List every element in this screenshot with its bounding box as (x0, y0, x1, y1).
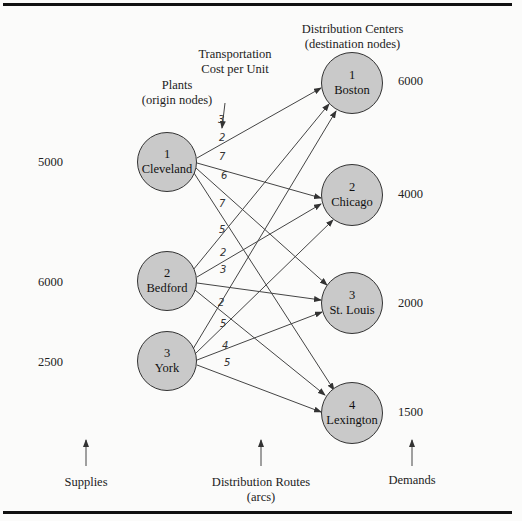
dc-label: Distribution Centers (295, 22, 410, 37)
cost-york-stlouis: 4 (222, 340, 228, 351)
demand-chicago: 4000 (398, 187, 423, 202)
node-name: St. Louis (329, 303, 374, 318)
dc-heading: Distribution Centers (destination nodes) (295, 22, 410, 52)
origin-node-cleveland: 1 Cleveland (137, 132, 197, 192)
cost-bedford-boston: 7 (219, 198, 226, 209)
arc-cleveland-chicago (197, 163, 321, 198)
arc-york-boston (193, 111, 336, 349)
dest-node-stlouis: 3 St. Louis (321, 272, 383, 334)
node-name: Lexington (326, 413, 377, 428)
arc-cleveland-stlouis (196, 168, 327, 285)
cost-york-boston: 2 (218, 297, 224, 308)
demand-lexington: 1500 (398, 405, 423, 420)
dest-node-lexington: 4 Lexington (321, 382, 383, 444)
arc-bedford-chicago (197, 204, 321, 277)
cost-york-chicago: 5 (220, 318, 226, 329)
dest-node-chicago: 2 Chicago (321, 164, 383, 226)
cost-bedford-stlouis: 2 (220, 247, 226, 258)
supply-york: 2500 (38, 355, 63, 370)
demand-stlouis: 2000 (398, 296, 423, 311)
demands-label: Demands (382, 473, 442, 488)
node-id: 3 (349, 288, 355, 303)
cost-cleveland-boston: 3 (218, 114, 224, 125)
cost-cleveland-stlouis: 7 (219, 151, 226, 162)
cost-cleveland-chicago: 2 (219, 132, 225, 143)
arc-york-stlouis (197, 312, 322, 360)
node-id: 2 (164, 266, 170, 281)
arc-york-lexington (197, 365, 321, 412)
node-id: 3 (164, 346, 170, 361)
routes-label: Distribution Routes (206, 475, 316, 490)
node-name: Boston (334, 83, 369, 98)
supplies-label: Supplies (56, 475, 116, 490)
routes-heading: Distribution Routes (arcs) (206, 475, 316, 505)
routes-sublabel: (arcs) (206, 490, 316, 505)
dest-node-boston: 1 Boston (321, 52, 383, 114)
node-id: 1 (164, 147, 170, 162)
transport-heading: Transportation Cost per Unit (190, 47, 280, 77)
node-id: 2 (349, 180, 355, 195)
demand-boston: 6000 (398, 74, 423, 89)
node-name: Cleveland (142, 162, 193, 177)
node-name: Bedford (147, 281, 188, 296)
cost-cleveland-lexington: 6 (221, 170, 227, 181)
arc-cleveland-lexington (194, 173, 334, 390)
plants-heading: Plants (origin nodes) (132, 78, 222, 108)
arc-bedford-lexington (195, 290, 325, 395)
arcs-layer: 3 2 7 6 7 5 2 3 2 5 4 5 (0, 0, 522, 521)
plants-sublabel: (origin nodes) (132, 93, 222, 108)
transport-sublabel: Cost per Unit (190, 62, 280, 77)
origin-node-bedford: 2 Bedford (137, 251, 197, 311)
cost-bedford-lexington: 3 (220, 264, 226, 275)
dc-sublabel: (destination nodes) (295, 37, 410, 52)
node-name: Chicago (331, 195, 373, 210)
supply-bedford: 6000 (38, 275, 63, 290)
transport-label: Transportation (190, 47, 280, 62)
origin-node-york: 3 York (137, 331, 197, 391)
node-name: York (155, 361, 179, 376)
cost-york-lexington: 5 (224, 357, 230, 368)
arc-bedford-boston (193, 104, 329, 270)
supply-cleveland: 5000 (38, 155, 63, 170)
node-id: 4 (349, 398, 355, 413)
cost-bedford-chicago: 5 (219, 224, 225, 235)
plants-label: Plants (132, 78, 222, 93)
node-id: 1 (349, 68, 355, 83)
